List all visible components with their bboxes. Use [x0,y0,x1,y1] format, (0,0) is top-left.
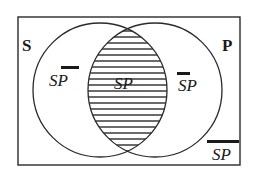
region-not-s-not-p-label: SP [212,146,231,163]
overbar-p [61,66,79,69]
shaded-intersection-region [88,23,222,157]
region-s-not-p-label: SP [49,72,68,89]
region-not-s-p-label: SP [178,77,197,94]
set-s-label: S [22,37,31,54]
overbar-s [177,72,190,75]
region-s-and-p-label: SP [114,75,133,92]
set-p-label: P [222,37,232,54]
overbar-sp [207,140,239,143]
